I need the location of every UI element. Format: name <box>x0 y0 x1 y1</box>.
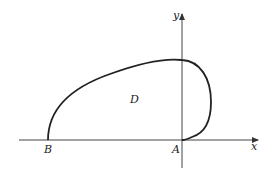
point-a-label: A <box>172 144 180 155</box>
diagram-figure: y x B A D <box>0 0 272 177</box>
y-axis-label: y <box>173 10 179 21</box>
diagram-canvas <box>0 0 272 177</box>
region-d-label: D <box>130 94 139 105</box>
point-b-label: B <box>44 144 52 155</box>
x-axis-label: x <box>251 141 257 152</box>
